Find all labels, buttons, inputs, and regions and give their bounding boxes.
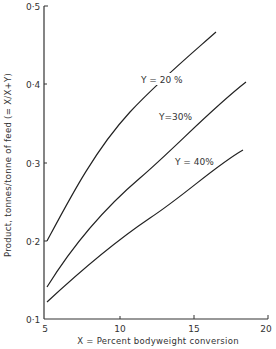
series-label-y30: Y=30% xyxy=(158,112,192,122)
x-tick-label: 5 xyxy=(42,324,48,334)
y-tick-label: 0·3 xyxy=(26,159,40,169)
y-tick-label: 0·1 xyxy=(26,315,40,325)
x-axis-title: X = Percent bodyweight conversion xyxy=(77,336,239,346)
series-line-y20 xyxy=(47,32,216,241)
y-tick-label: 0·2 xyxy=(26,237,40,247)
x-tick-label: 20 xyxy=(260,324,272,334)
series-line-y40 xyxy=(47,150,243,302)
series-label-y40: Y = 40% xyxy=(174,157,214,167)
line-chart: 0·5 0·4 0·3 0·2 0·1 5 10 15 20 X = Perce… xyxy=(0,0,276,349)
series-line-y30 xyxy=(47,82,246,287)
x-tick-label: 10 xyxy=(114,324,126,334)
y-tick-label: 0·5 xyxy=(26,2,40,12)
x-tick-label: 15 xyxy=(188,324,199,334)
y-tick-label: 0·4 xyxy=(26,80,41,90)
y-axis-title: Product, tonnes/tonne of feed (= X/X+Y) xyxy=(3,73,13,257)
series-label-y20: Y = 20 % xyxy=(140,75,183,85)
